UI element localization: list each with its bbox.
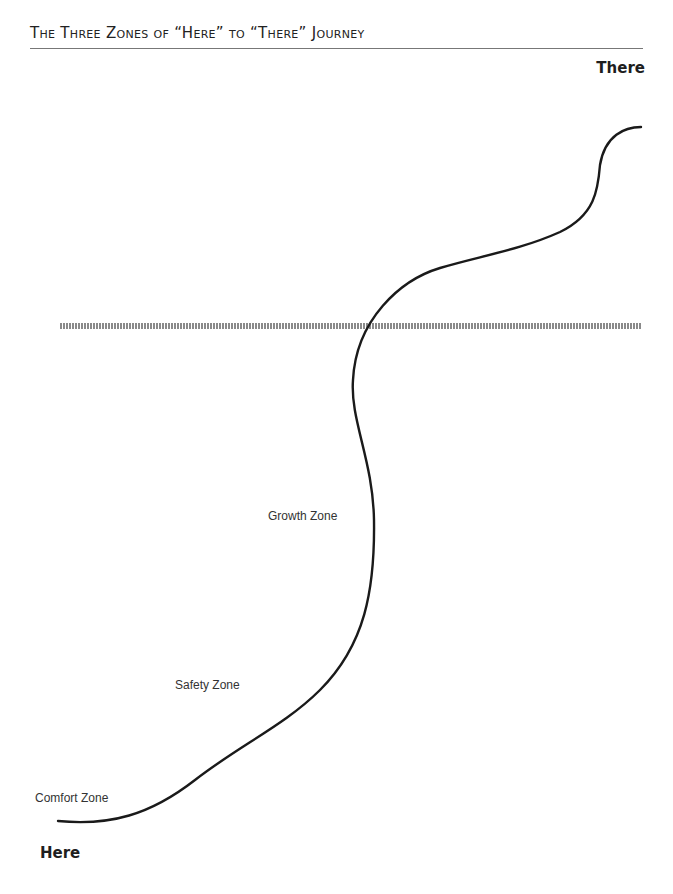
journey-path [58,127,641,822]
growth-zone-label: Growth Zone [268,509,337,523]
safety-zone-label: Safety Zone [175,678,240,692]
here-label: Here [40,844,80,862]
comfort-zone-label: Comfort Zone [35,791,108,805]
journey-diagram [0,0,673,894]
